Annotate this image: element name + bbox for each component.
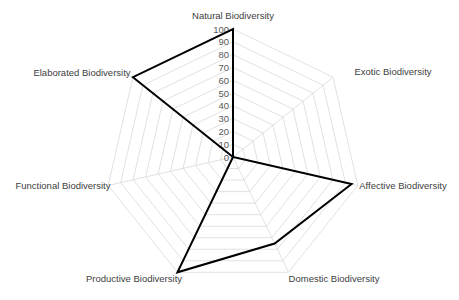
data-series-line: [133, 29, 352, 272]
category-label: Functional Biodiversity: [15, 180, 110, 191]
grid-spoke: [233, 77, 333, 157]
category-label: Elaborated Biodiversity: [33, 67, 130, 78]
radial-tick-label: 90: [218, 36, 229, 47]
radial-tick-label: 30: [218, 113, 229, 124]
radial-tick-label: 70: [218, 62, 229, 73]
radial-tick-label: 20: [218, 126, 229, 137]
radar-chart: 0102030405060708090100Natural Biodiversi…: [0, 0, 459, 300]
category-label: Domestic Biodiversity: [289, 273, 380, 284]
radial-tick-label: 40: [218, 100, 229, 111]
category-label: Natural Biodiversity: [192, 10, 274, 21]
grid-spoke: [108, 157, 233, 185]
category-label: Productive Biodiversity: [86, 273, 182, 284]
category-label: Affective Biodiversity: [359, 180, 447, 191]
category-label: Exotic Biodiversity: [354, 66, 431, 77]
radial-tick-label: 80: [218, 49, 229, 60]
radial-tick-label: 50: [218, 88, 229, 99]
radar-plot-area: 0102030405060708090100Natural Biodiversi…: [0, 0, 459, 300]
radial-tick-label: 10: [218, 139, 229, 150]
radial-tick-label: 60: [218, 75, 229, 86]
